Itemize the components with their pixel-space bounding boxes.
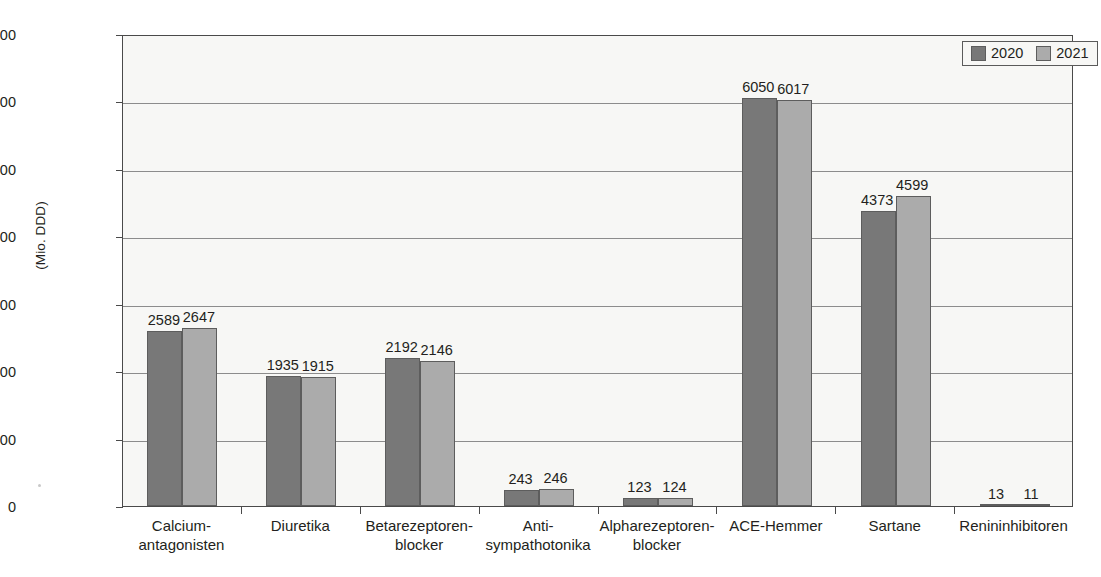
bar-2020-6	[861, 211, 896, 506]
bar-2020-3	[504, 490, 539, 506]
y-tick-label: 0	[0, 499, 16, 515]
bar-2021-0	[182, 328, 217, 506]
bar-2020-5	[742, 98, 777, 506]
bar-2021-3	[539, 489, 574, 506]
x-category-label-line2: sympathotonika	[486, 535, 591, 554]
bar-2020-4	[623, 498, 658, 506]
bar-value-label: 1915	[302, 358, 334, 374]
x-category-label-line1: Calcium-	[152, 517, 211, 534]
legend-swatch-icon-2021	[1036, 46, 1051, 61]
bar-value-label: 6017	[777, 81, 809, 97]
x-tick-mark	[598, 507, 599, 514]
y-tick-label: 4000	[0, 229, 16, 245]
x-category-label: Diuretika	[271, 516, 330, 535]
bar-2021-4	[658, 498, 693, 506]
x-category-label-line2: blocker	[365, 535, 473, 554]
gridline	[123, 171, 1072, 172]
legend-entry-2021: 2021	[1036, 46, 1088, 61]
bar-2020-0	[147, 331, 182, 506]
bar-value-label: 2589	[148, 312, 180, 328]
plot-area	[122, 35, 1073, 507]
bar-2020-2	[385, 358, 420, 506]
gridline	[123, 103, 1072, 104]
x-category-label-line2: antagonisten	[138, 535, 224, 554]
x-category-label-line1: Alpharezeptoren-	[599, 517, 714, 534]
bar-2020-7	[980, 504, 1015, 506]
x-category-label-line2: blocker	[599, 535, 714, 554]
x-category-label-line1: ACE-Hemmer	[729, 517, 822, 534]
x-category-label: Sartane	[868, 516, 921, 535]
y-axis-title: (Mio. DDD)	[33, 166, 48, 306]
y-tick-label: 1000	[0, 432, 16, 448]
x-tick-mark	[716, 507, 717, 514]
legend-swatch-icon-2020	[971, 46, 986, 61]
bar-value-label: 11	[1024, 486, 1039, 502]
bar-2021-1	[301, 377, 336, 506]
x-category-label: Alpharezeptoren-blocker	[599, 516, 714, 554]
y-tick-label: 6000	[0, 94, 16, 110]
legend: 2020 2021	[962, 41, 1098, 66]
y-tick-label: 7000	[0, 27, 16, 43]
bar-2021-5	[777, 100, 812, 506]
x-category-label: Betarezeptoren-blocker	[365, 516, 473, 554]
bar-2021-6	[896, 196, 931, 506]
bar-value-label: 6050	[742, 79, 774, 95]
bar-value-label: 4373	[861, 192, 893, 208]
bar-chart: (Mio. DDD) 01000200030004000500060007000…	[0, 0, 1101, 577]
bar-value-label: 2146	[421, 342, 453, 358]
x-tick-mark	[360, 507, 361, 514]
x-category-label-line1: Diuretika	[271, 517, 330, 534]
bar-value-label: 2647	[183, 309, 215, 325]
x-tick-mark	[954, 507, 955, 514]
x-category-label-line1: Anti-	[523, 517, 554, 534]
x-tick-mark	[835, 507, 836, 514]
bar-2021-7	[1015, 504, 1050, 506]
bar-value-label: 13	[988, 486, 1004, 502]
bar-value-label: 1935	[267, 357, 299, 373]
x-category-label-line1: Renininhibitoren	[959, 517, 1067, 534]
bar-value-label: 243	[508, 471, 532, 487]
y-tick-label: 3000	[0, 297, 16, 313]
x-category-label-line1: Sartane	[868, 517, 921, 534]
bar-2021-2	[420, 361, 455, 506]
x-category-label-line1: Betarezeptoren-	[365, 517, 473, 534]
scan-speck	[38, 484, 41, 487]
bar-value-label: 124	[662, 479, 686, 495]
x-category-label: Anti-sympathotonika	[486, 516, 591, 554]
y-tick-label: 2000	[0, 364, 16, 380]
bar-value-label: 123	[627, 479, 651, 495]
bar-value-label: 2192	[386, 339, 418, 355]
x-tick-mark	[241, 507, 242, 514]
x-category-label: Calcium-antagonisten	[138, 516, 224, 554]
legend-label-2020: 2020	[991, 46, 1023, 61]
bar-value-label: 246	[543, 470, 567, 486]
x-category-label: ACE-Hemmer	[729, 516, 822, 535]
bar-value-label: 4599	[896, 177, 928, 193]
legend-label-2021: 2021	[1056, 46, 1088, 61]
legend-entry-2020: 2020	[971, 46, 1023, 61]
y-tick-label: 5000	[0, 162, 16, 178]
x-tick-mark	[479, 507, 480, 514]
bar-2020-1	[266, 376, 301, 506]
y-tick-mark	[116, 507, 123, 508]
x-category-label: Renininhibitoren	[959, 516, 1067, 535]
